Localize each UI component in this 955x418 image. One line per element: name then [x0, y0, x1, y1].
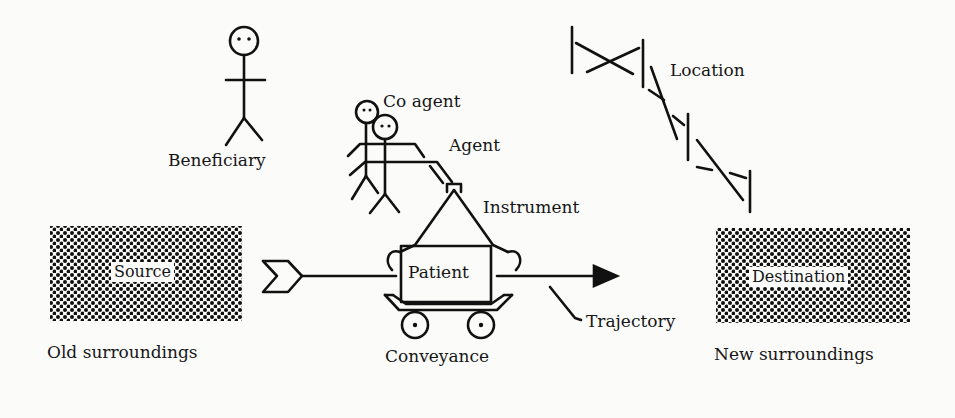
instrument-label: Instrument — [483, 199, 579, 216]
agent-label: Agent — [449, 137, 500, 154]
patient-label: Patient — [408, 264, 469, 281]
location-ladder-icon — [572, 27, 750, 212]
old-surroundings-label: Old surroundings — [47, 344, 198, 361]
location-label: Location — [670, 62, 745, 79]
trajectory-label: Trajectory — [586, 313, 675, 330]
co-agent-label: Co agent — [383, 93, 461, 110]
conveyance-label: Conveyance — [385, 348, 489, 365]
new-surroundings-label: New surroundings — [714, 346, 874, 363]
arrow-tail-icon — [263, 261, 396, 292]
beneficiary-label: Beneficiary — [168, 152, 266, 169]
thematic-roles-diagram: Beneficiary Co agent Agent Instrument Lo… — [0, 0, 955, 418]
source-label: Source — [111, 262, 174, 282]
destination-label: Destination — [749, 267, 848, 287]
beneficiary-figure-icon — [226, 27, 265, 145]
